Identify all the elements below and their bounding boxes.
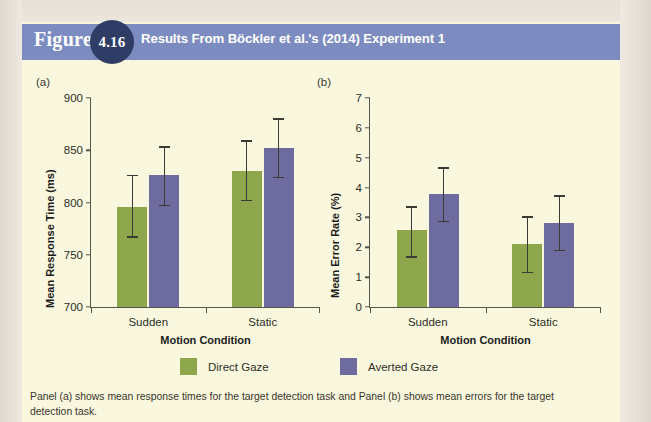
- legend-swatch-averted-icon: [340, 358, 357, 375]
- error-bar-cap-upper: [522, 216, 533, 217]
- panel-a-x-category-sudden: Sudden: [128, 316, 168, 328]
- panel-b-y-tick-mark: [365, 97, 370, 98]
- panel-a-y-tick-mark: [86, 150, 91, 151]
- legend-label-direct: Direct Gaze: [208, 361, 269, 373]
- error-bar-cap-upper: [159, 146, 170, 147]
- error-bar-line: [132, 175, 133, 237]
- chart-panel-b: (b) Mean Error Rate (%) Motion Condition…: [315, 76, 615, 358]
- error-bar-cap-lower: [406, 256, 417, 257]
- error-bar-cap-upper: [127, 175, 138, 176]
- error-bar-cap-lower: [127, 236, 138, 237]
- panel-a-tag: (a): [36, 76, 50, 88]
- legend-item-direct: Direct Gaze: [180, 358, 269, 375]
- panel-b-y-axis-label: Mean Error Rate (%): [329, 193, 341, 298]
- panel-b-y-tick-mark: [365, 187, 370, 188]
- page-margin-left: [0, 0, 22, 422]
- panel-b-y-tick-mark: [365, 276, 370, 277]
- error-bar-line: [278, 119, 279, 178]
- figure-label-word: Figure: [34, 28, 92, 51]
- error-bar-cap-upper: [273, 118, 284, 119]
- page-margin-right: [620, 0, 651, 422]
- panel-b-y-tick-mark: [365, 127, 370, 128]
- panel-a-x-tick-mark: [206, 307, 207, 313]
- panel-b-y-tick-mark: [365, 247, 370, 248]
- error-bar-cap-upper: [438, 167, 449, 168]
- figure-caption: Panel (a) shows mean response times for …: [30, 389, 590, 419]
- chart-panel-a: (a) Mean Response Time (ms) Motion Condi…: [30, 76, 330, 358]
- panel-b-plot-area: Motion Condition 01234567SuddenStatic: [369, 98, 601, 308]
- error-bar-cap-lower: [273, 177, 284, 178]
- figure-title: Results From Böckler et al.'s (2014) Exp…: [141, 31, 445, 46]
- error-bar-cap-upper: [241, 140, 252, 141]
- error-bar-cap-lower: [438, 221, 449, 222]
- panel-a-y-tick-mark: [86, 254, 91, 255]
- panel-b-x-category-sudden: Sudden: [408, 316, 448, 328]
- panel-b-tag: (b): [317, 76, 331, 88]
- error-bar-line: [411, 207, 412, 257]
- panel-b-y-tick-mark: [365, 217, 370, 218]
- panel-b-x-category-static: Static: [529, 316, 558, 328]
- page-margin-top: [0, 0, 651, 22]
- panel-a-plot-area: Motion Condition 700750800850900SuddenSt…: [90, 98, 320, 308]
- panel-b-x-tick-mark: [486, 307, 487, 313]
- chart-legend: Direct GazeAverted Gaze: [30, 358, 615, 380]
- panel-b-x-tick-mark: [370, 307, 371, 313]
- panel-a-x-tick-mark: [91, 307, 92, 313]
- error-bar-line: [246, 141, 247, 201]
- error-bar-cap-lower: [554, 250, 565, 251]
- panel-a-y-tick-mark: [86, 202, 91, 203]
- legend-swatch-direct-icon: [180, 358, 197, 375]
- error-bar-cap-upper: [406, 206, 417, 207]
- panel-b-x-tick-mark: [600, 307, 601, 313]
- error-bar-line: [443, 168, 444, 221]
- panel-a-y-tick-mark: [86, 97, 91, 98]
- error-bar-cap-lower: [159, 205, 170, 206]
- panel-b-y-tick-mark: [365, 157, 370, 158]
- panel-a-y-axis-label: Mean Response Time (ms): [44, 169, 56, 308]
- figure-number-badge: 4.16: [90, 20, 134, 64]
- error-bar-cap-lower: [241, 200, 252, 201]
- panel-a-x-category-static: Static: [248, 316, 277, 328]
- error-bar-line: [527, 217, 528, 273]
- error-bar-cap-lower: [522, 272, 533, 273]
- figure-number-text: 4.16: [98, 34, 125, 51]
- error-bar-line: [559, 196, 560, 250]
- error-bar-line: [164, 147, 165, 206]
- panel-b-x-axis-label: Motion Condition: [370, 334, 601, 346]
- figure-page: Figure 4.16 Results From Böckler et al.'…: [0, 0, 651, 422]
- legend-label-averted: Averted Gaze: [368, 361, 438, 373]
- panel-a-x-axis-label: Motion Condition: [91, 334, 320, 346]
- legend-item-averted: Averted Gaze: [340, 358, 438, 375]
- error-bar-cap-upper: [554, 195, 565, 196]
